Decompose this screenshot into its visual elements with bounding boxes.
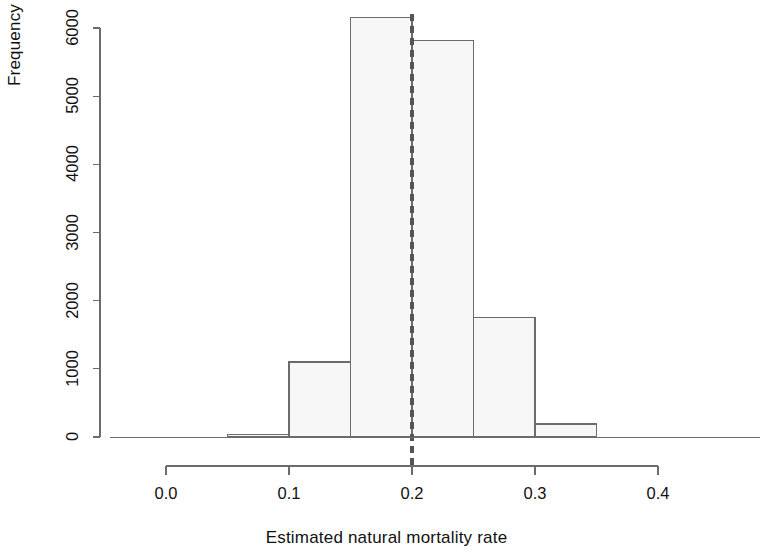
y-tick-label: 3000 <box>63 202 82 262</box>
x-tick-label: 0.1 <box>259 484 319 503</box>
x-tick-label: 0.3 <box>505 484 565 503</box>
x-tick-label: 0.4 <box>628 484 688 503</box>
y-tick-label: 4000 <box>63 134 82 194</box>
x-axis <box>166 466 658 475</box>
x-tick-label: 0.0 <box>136 484 196 503</box>
histogram-bar <box>289 362 351 437</box>
histogram-bar <box>474 318 536 437</box>
y-axis <box>93 28 100 437</box>
y-tick-label: 6000 <box>63 0 82 58</box>
y-tick-label: 1000 <box>63 338 82 398</box>
histogram-bar <box>535 424 597 437</box>
y-tick-label: 0 <box>63 407 82 467</box>
x-tick-label: 0.2 <box>382 484 442 503</box>
histogram-bar <box>412 40 474 437</box>
y-tick-label: 5000 <box>63 66 82 126</box>
histogram-bar <box>351 18 413 437</box>
histogram-figure: Frequency Estimated natural mortality ra… <box>0 0 773 558</box>
plot-area <box>0 0 773 558</box>
y-tick-label: 2000 <box>63 270 82 330</box>
